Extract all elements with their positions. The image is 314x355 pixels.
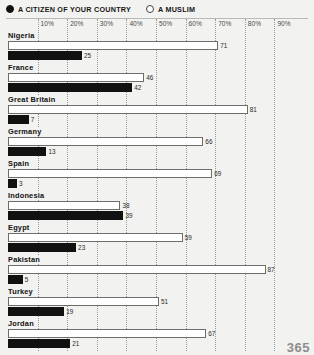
chart-page: A CITIZEN OF YOUR COUNTRY A MUSLIM 10%20… — [0, 0, 314, 355]
bar-row: 51 — [6, 297, 308, 307]
x-axis-tick-label: 70% — [215, 20, 231, 27]
bar-muslim[interactable] — [8, 329, 206, 338]
bar-value-label: 25 — [82, 52, 91, 59]
country-label: Pakistan — [8, 255, 42, 264]
bar-row: 42 — [6, 83, 308, 93]
bar-row: 71 — [6, 41, 308, 51]
country-label: Spain — [8, 159, 31, 168]
bar-value-label: 69 — [212, 170, 221, 177]
country-label: France — [8, 63, 35, 72]
x-axis-tick-label: 10% — [38, 20, 54, 27]
bar-row: 39 — [6, 211, 308, 221]
country-label: Indonesia — [8, 191, 46, 200]
bar-value-label: 59 — [183, 234, 192, 241]
country-group: France4642 — [6, 63, 308, 95]
bar-citizen[interactable] — [8, 275, 23, 284]
bar-citizen[interactable] — [8, 51, 82, 60]
bar-row: 21 — [6, 339, 308, 349]
bar-row: 81 — [6, 105, 308, 115]
bar-citizen[interactable] — [8, 83, 132, 92]
x-axis-tick-label: 60% — [186, 20, 202, 27]
bar-row: 46 — [6, 73, 308, 83]
bar-row: 59 — [6, 233, 308, 243]
x-axis-tick-label: 90% — [274, 20, 290, 27]
bar-citizen[interactable] — [8, 339, 70, 348]
bar-citizen[interactable] — [8, 307, 64, 316]
bar-citizen[interactable] — [8, 179, 17, 188]
chart-bar-groups: Nigeria7125France4642Great Britain817Ger… — [6, 31, 308, 351]
bar-muslim[interactable] — [8, 105, 248, 114]
bar-value-label: 19 — [64, 308, 73, 315]
legend-entry-citizen: A CITIZEN OF YOUR COUNTRY — [6, 5, 131, 14]
bar-citizen[interactable] — [8, 243, 76, 252]
bar-muslim[interactable] — [8, 41, 218, 50]
country-label: Nigeria — [8, 31, 36, 40]
bar-value-label: 23 — [76, 244, 85, 251]
bar-row: 67 — [6, 329, 308, 339]
bar-value-label: 51 — [159, 298, 168, 305]
chart-x-axis: 10%20%30%40%50%60%70%80%90% — [6, 19, 308, 31]
bar-value-label: 3 — [17, 180, 23, 187]
country-group: Turkey5119 — [6, 287, 308, 319]
hollow-circle-icon — [146, 5, 154, 13]
bar-value-label: 13 — [46, 148, 55, 155]
country-label: Turkey — [8, 287, 35, 296]
country-group: Pakistan875 — [6, 255, 308, 287]
country-label: Egypt — [8, 223, 32, 232]
chart-plot-area: 10%20%30%40%50%60%70%80%90% Nigeria7125F… — [6, 18, 308, 351]
bar-value-label: 39 — [123, 212, 132, 219]
country-group: Egypt5923 — [6, 223, 308, 255]
legend-label-citizen: A CITIZEN OF YOUR COUNTRY — [18, 5, 131, 14]
bar-value-label: 87 — [266, 266, 275, 273]
bar-citizen[interactable] — [8, 147, 46, 156]
legend-label-muslim: A MUSLIM — [158, 5, 195, 14]
country-group: Indonesia3839 — [6, 191, 308, 223]
bar-value-label: 66 — [203, 138, 212, 145]
x-axis-tick-label: 30% — [97, 20, 113, 27]
bar-value-label: 42 — [132, 84, 141, 91]
x-axis-tick-label: 20% — [67, 20, 83, 27]
bar-value-label: 81 — [248, 106, 257, 113]
bar-row: 69 — [6, 169, 308, 179]
bar-row: 19 — [6, 307, 308, 317]
bar-value-label: 38 — [120, 202, 129, 209]
country-group: Spain693 — [6, 159, 308, 191]
bar-muslim[interactable] — [8, 297, 159, 306]
bar-row: 25 — [6, 51, 308, 61]
country-group: Great Britain817 — [6, 95, 308, 127]
bar-row: 7 — [6, 115, 308, 125]
bar-citizen[interactable] — [8, 115, 29, 124]
bar-muslim[interactable] — [8, 233, 183, 242]
bar-muslim[interactable] — [8, 265, 266, 274]
bar-row: 66 — [6, 137, 308, 147]
x-axis-tick-label: 40% — [126, 20, 142, 27]
bar-muslim[interactable] — [8, 169, 212, 178]
country-group: Nigeria7125 — [6, 31, 308, 63]
bar-value-label: 71 — [218, 42, 227, 49]
country-label: Germany — [8, 127, 43, 136]
country-label: Jordan — [8, 319, 36, 328]
bar-value-label: 7 — [29, 116, 35, 123]
filled-circle-icon — [6, 5, 14, 13]
bar-row: 5 — [6, 275, 308, 285]
bar-value-label: 21 — [70, 340, 79, 347]
chart-legend: A CITIZEN OF YOUR COUNTRY A MUSLIM — [6, 2, 195, 16]
country-group: Germany6613 — [6, 127, 308, 159]
country-label: Great Britain — [8, 95, 57, 104]
bar-value-label: 46 — [144, 74, 153, 81]
bar-row: 23 — [6, 243, 308, 253]
bar-muslim[interactable] — [8, 73, 144, 82]
legend-entry-muslim: A MUSLIM — [146, 5, 195, 14]
bar-value-label: 67 — [206, 330, 215, 337]
x-axis-tick-label: 50% — [156, 20, 172, 27]
bar-muslim[interactable] — [8, 201, 120, 210]
country-group: Jordan6721 — [6, 319, 308, 351]
bar-row: 3 — [6, 179, 308, 189]
bar-citizen[interactable] — [8, 211, 123, 220]
bar-muslim[interactable] — [8, 137, 203, 146]
bar-row: 87 — [6, 265, 308, 275]
bar-row: 13 — [6, 147, 308, 157]
bar-value-label: 5 — [23, 276, 29, 283]
bar-row: 38 — [6, 201, 308, 211]
x-axis-tick-label: 80% — [245, 20, 261, 27]
